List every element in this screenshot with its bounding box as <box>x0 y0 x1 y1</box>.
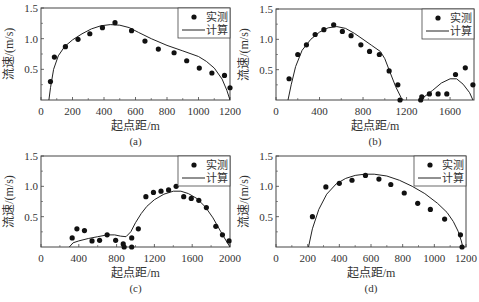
x-tick-label: 1000 <box>188 105 211 117</box>
x-axis-title: 起点距/m <box>351 119 400 133</box>
measured-point <box>402 190 407 195</box>
legend-measured-label: 实测 <box>450 11 472 24</box>
measured-point <box>112 20 117 25</box>
y-axis-title: 流速/(m/s) <box>2 175 16 228</box>
measured-point <box>348 33 353 38</box>
x-tick-label: 400 <box>71 252 88 264</box>
legend-computed-label: 计算 <box>206 171 228 184</box>
x-axis-title: 起点距/m <box>347 266 396 280</box>
measured-point <box>397 97 402 102</box>
measured-point <box>295 52 300 57</box>
measured-point <box>156 46 161 51</box>
x-tick-label: 1000 <box>423 252 446 264</box>
y-tick-label: 1.5 <box>24 2 38 14</box>
measured-point <box>349 178 354 183</box>
measured-point <box>463 65 468 70</box>
measured-point <box>105 232 110 237</box>
x-tick-label: 600 <box>127 105 144 117</box>
measured-point <box>323 184 328 189</box>
measured-point <box>367 49 372 54</box>
x-tick-label: 1600 <box>439 105 462 117</box>
y-tick-label: 0.5 <box>24 211 38 223</box>
measured-point <box>75 37 80 42</box>
measured-point <box>136 226 141 231</box>
measured-point <box>313 32 318 37</box>
x-tick-label: 1200 <box>143 252 166 264</box>
measured-point <box>74 226 79 231</box>
y-tick-label: 1.0 <box>259 33 273 45</box>
measured-point <box>444 91 449 96</box>
legend-marker-icon <box>427 162 432 167</box>
measured-point <box>358 42 363 47</box>
panel-label: (d) <box>365 282 378 295</box>
measured-point <box>89 238 94 243</box>
measured-point <box>171 50 176 55</box>
y-tick-label: 0.5 <box>259 211 273 223</box>
x-tick-label: 200 <box>64 105 81 117</box>
y-tick-label: 1.0 <box>24 180 38 192</box>
measured-point <box>310 214 315 219</box>
legend-computed-label: 计算 <box>450 24 472 37</box>
measured-point <box>143 194 148 199</box>
legend-measured-label: 实测 <box>206 158 228 171</box>
computed-curve <box>288 27 403 100</box>
x-tick-label: 2000 <box>219 252 242 264</box>
figure-canvas: 0200400600800100012000.51.01.5流速/(m/s)起点… <box>0 0 479 302</box>
x-tick-label: 200 <box>299 252 316 264</box>
legend-measured-label: 实测 <box>206 10 228 23</box>
legend-marker-icon <box>191 162 196 167</box>
x-tick-label: 0 <box>273 105 279 117</box>
measured-point <box>321 27 326 32</box>
panel-a: 0200400600800100012000.51.01.5流速/(m/s)起点… <box>2 2 242 148</box>
x-tick-label: 1200 <box>219 105 242 117</box>
x-tick-label: 1200 <box>455 252 478 264</box>
measured-point <box>427 91 432 96</box>
x-tick-label: 400 <box>96 105 113 117</box>
measured-point <box>196 198 201 203</box>
computed-curve <box>69 191 230 247</box>
y-axis-title: 流速/(m/s) <box>237 175 251 228</box>
y-tick-label: 1.5 <box>259 3 273 15</box>
measured-point <box>122 244 127 249</box>
measured-point <box>226 238 231 243</box>
measured-point <box>158 189 163 194</box>
measured-point <box>340 29 345 34</box>
x-tick-label: 0 <box>38 105 44 117</box>
y-tick-label: 1.0 <box>24 33 38 45</box>
x-tick-label: 400 <box>331 252 348 264</box>
measured-point <box>286 76 291 81</box>
x-tick-label: 1600 <box>181 252 204 264</box>
computed-curve <box>420 79 473 100</box>
x-tick-label: 400 <box>311 105 328 117</box>
measured-point <box>166 187 171 192</box>
measured-point <box>387 68 392 73</box>
measured-point <box>52 54 57 59</box>
measured-point <box>453 72 458 77</box>
measured-point <box>470 82 475 87</box>
x-tick-label: 0 <box>38 252 44 264</box>
measured-point <box>82 228 87 233</box>
measured-point <box>220 232 225 237</box>
measured-point <box>213 224 218 229</box>
measured-point <box>395 82 400 87</box>
y-tick-label: 0.5 <box>259 64 273 76</box>
x-tick-label: 600 <box>363 252 380 264</box>
measured-point <box>304 42 309 47</box>
measured-point <box>142 39 147 44</box>
measured-point <box>113 238 118 243</box>
measured-point <box>97 238 102 243</box>
measured-point <box>181 194 186 199</box>
panel-label: (b) <box>369 135 382 148</box>
measured-point <box>458 232 463 237</box>
x-tick-label: 800 <box>355 105 372 117</box>
legend-measured-label: 实测 <box>442 158 464 171</box>
x-tick-label: 800 <box>159 105 176 117</box>
measured-point <box>415 201 420 206</box>
panel-d: 0200400600800100012000.51.01.5流速/(m/s)起点… <box>237 150 478 295</box>
measured-point <box>100 25 105 30</box>
measured-point <box>151 190 156 195</box>
panel-label: (a) <box>129 135 142 148</box>
measured-point <box>388 182 393 187</box>
measured-point <box>428 207 433 212</box>
measured-point <box>87 31 92 36</box>
